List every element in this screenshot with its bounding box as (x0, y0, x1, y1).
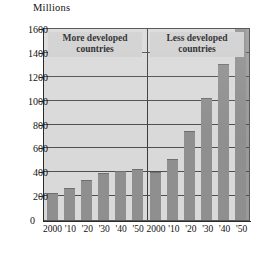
bar-less-developed-10 (167, 159, 178, 220)
bar-less-developed-30 (201, 98, 212, 220)
x-tick-label-less-developed-20: '20 (182, 224, 199, 240)
y-axis-title: Millions (33, 2, 70, 13)
x-tick-label-more-developed-20: '20 (79, 224, 96, 240)
bar-more-developed-50 (132, 169, 143, 220)
bar-more-developed-40 (115, 171, 126, 220)
bar-less-developed-2000 (150, 172, 161, 220)
x-tick-label-more-developed-30: '30 (96, 224, 113, 240)
bar-more-developed-2000 (47, 193, 58, 220)
x-tick-label-less-developed-40: '40 (216, 224, 233, 240)
y-tick-mark-1400 (39, 53, 43, 54)
panel-caption-more-developed: More developed countries (48, 32, 142, 57)
bar-more-developed-30 (98, 173, 109, 220)
bar-less-developed-20 (184, 131, 195, 220)
x-axis-labels-more-developed: 2000'10'20'30'40'50 (43, 224, 147, 240)
y-tick-mark-800 (39, 125, 43, 126)
x-axis-labels: 2000'10'20'30'40'50 2000'10'20'30'40'50 (43, 224, 250, 240)
bars-layer (44, 29, 249, 220)
x-tick-label-less-developed-30: '30 (199, 224, 216, 240)
y-tick-label-1400: 1400 (18, 47, 48, 58)
panel-caption-less-developed: Less developed countries (150, 32, 244, 57)
y-tick-mark-200 (39, 196, 43, 197)
bar-group-more-developed (44, 29, 147, 220)
bar-less-developed-50 (235, 29, 246, 220)
bar-less-developed-40 (218, 64, 229, 220)
bar-group-less-developed (147, 29, 250, 220)
y-tick-label-200: 200 (18, 191, 48, 202)
y-tick-mark-400 (39, 172, 43, 173)
y-tick-mark-1200 (39, 77, 43, 78)
y-tick-mark-1600 (39, 29, 43, 30)
x-axis-line (43, 221, 251, 222)
y-tick-label-1600: 1600 (18, 24, 48, 35)
y-tick-mark-600 (39, 148, 43, 149)
y-tick-label-1000: 1000 (18, 95, 48, 106)
x-tick-label-less-developed-2000: 2000 (147, 224, 166, 240)
x-tick-label-more-developed-40: '40 (113, 224, 130, 240)
x-tick-label-more-developed-10: '10 (62, 224, 79, 240)
chart-figure: Millions More developed countries Less d… (0, 0, 267, 253)
y-tick-label-1200: 1200 (18, 71, 48, 82)
y-tick-label-0: 0 (30, 215, 35, 226)
x-tick-label-less-developed-50: '50 (233, 224, 250, 240)
y-tick-mark-1000 (39, 101, 43, 102)
bar-more-developed-20 (81, 180, 92, 220)
y-tick-label-800: 800 (18, 119, 48, 130)
x-tick-label-more-developed-2000: 2000 (43, 224, 62, 240)
plot-area: More developed countries Less developed … (43, 28, 250, 221)
y-tick-label-400: 400 (18, 167, 48, 178)
x-axis-labels-less-developed: 2000'10'20'30'40'50 (147, 224, 251, 240)
y-tick-label-600: 600 (18, 143, 48, 154)
bar-more-developed-10 (64, 188, 75, 220)
x-tick-label-less-developed-10: '10 (166, 224, 183, 240)
x-tick-label-more-developed-50: '50 (130, 224, 147, 240)
